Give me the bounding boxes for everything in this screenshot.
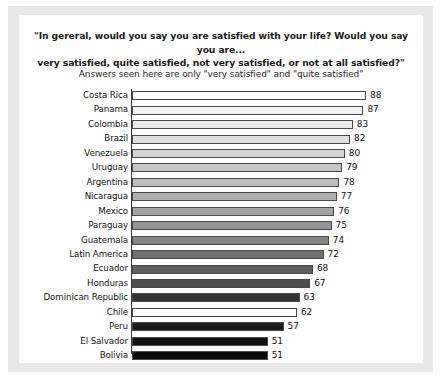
bar-fill	[132, 250, 324, 259]
bar-category-label: Uruguay	[19, 162, 128, 172]
bar-fill	[132, 351, 268, 360]
bar-value-label: 72	[328, 249, 339, 259]
bar-track	[132, 207, 334, 216]
plot-area: Costa Rica88Panama87Colombia83Brazil82Ve…	[19, 89, 423, 361]
bar-track	[132, 293, 300, 302]
bar-fill	[132, 337, 268, 346]
bar-category-label: Ecuador	[19, 263, 128, 273]
bar-value-label: 80	[349, 148, 360, 158]
bar-row: Brazil82	[19, 132, 423, 146]
bar-row: Panama87	[19, 103, 423, 117]
bar-track	[132, 250, 324, 259]
bar-fill	[132, 308, 297, 317]
bar-fill	[132, 265, 313, 274]
chart-canvas: "In gereral, would you say you are satis…	[19, 15, 423, 363]
bar-category-label: Dominican Republic	[19, 292, 128, 302]
bar-value-label: 74	[333, 235, 344, 245]
bar-row: Argentina78	[19, 176, 423, 190]
bar-value-label: 76	[338, 206, 349, 216]
bar-value-label: 51	[272, 350, 283, 360]
bar-row: Peru57	[19, 320, 423, 334]
bar-track	[132, 322, 284, 331]
bar-value-label: 79	[346, 162, 357, 172]
bar-value-label: 63	[304, 292, 315, 302]
bar-category-label: Honduras	[19, 278, 128, 288]
bar-row: Costa Rica88	[19, 89, 423, 103]
bar-row: Ecuador68	[19, 262, 423, 276]
bar-fill	[132, 236, 329, 245]
bar-category-label: Guatemala	[19, 235, 128, 245]
bar-category-label: Chile	[19, 307, 128, 317]
bar-row: Honduras67	[19, 277, 423, 291]
bar-track	[132, 351, 268, 360]
bar-value-label: 77	[341, 191, 352, 201]
figure-frame: "In gereral, would you say you are satis…	[0, 0, 441, 380]
bar-value-label: 67	[314, 278, 325, 288]
bar-track	[132, 265, 313, 274]
bar-fill	[132, 293, 300, 302]
bar-row: Bolivia51	[19, 349, 423, 363]
bar-fill	[132, 192, 337, 201]
bar-value-label: 88	[370, 90, 381, 100]
bar-fill	[132, 163, 342, 172]
bar-fill	[132, 149, 345, 158]
bar-fill	[132, 178, 339, 187]
bar-fill	[132, 279, 310, 288]
bar-row: Chile62	[19, 306, 423, 320]
bar-category-label: Costa Rica	[19, 90, 128, 100]
bar-value-label: 62	[301, 307, 312, 317]
bar-category-label: Venezuela	[19, 148, 128, 158]
bar-category-label: Peru	[19, 321, 128, 331]
bar-value-label: 82	[354, 133, 365, 143]
bar-category-label: Mexico	[19, 206, 128, 216]
bar-track	[132, 135, 350, 144]
bar-value-label: 87	[367, 104, 378, 114]
bar-row: Dominican Republic63	[19, 291, 423, 305]
bar-row: El Salvador51	[19, 335, 423, 349]
bar-value-label: 51	[272, 336, 283, 346]
bar-row: Venezuela80	[19, 147, 423, 161]
chart-title-line-1: "In gereral, would you say you are satis…	[31, 29, 411, 56]
bar-track	[132, 178, 339, 187]
bar-row: Guatemala74	[19, 234, 423, 248]
bar-value-label: 68	[317, 263, 328, 273]
bar-category-label: Argentina	[19, 177, 128, 187]
bar-track	[132, 308, 297, 317]
bar-fill	[132, 91, 366, 100]
bar-row: Mexico76	[19, 205, 423, 219]
bar-track	[132, 236, 329, 245]
bar-category-label: Nicaragua	[19, 191, 128, 201]
bar-track	[132, 106, 363, 115]
chart-subtitle: Answers seen here are only "very satisfi…	[31, 68, 411, 80]
bar-category-label: El Salvador	[19, 336, 128, 346]
bar-track	[132, 279, 310, 288]
bar-track	[132, 337, 268, 346]
bar-row: Paraguay75	[19, 219, 423, 233]
chart-title: "In gereral, would you say you are satis…	[31, 29, 411, 70]
bar-fill	[132, 322, 284, 331]
bar-row: Uruguay79	[19, 161, 423, 175]
bar-fill	[132, 106, 363, 115]
bar-category-label: Bolivia	[19, 350, 128, 360]
bar-track	[132, 120, 353, 129]
bar-value-label: 75	[336, 220, 347, 230]
bar-track	[132, 163, 342, 172]
bar-value-label: 83	[357, 119, 368, 129]
bar-category-label: Latin America	[19, 249, 128, 259]
bar-track	[132, 149, 345, 158]
bar-fill	[132, 135, 350, 144]
bar-category-label: Paraguay	[19, 220, 128, 230]
bar-fill	[132, 120, 353, 129]
bar-value-label: 78	[343, 177, 354, 187]
bar-row: Nicaragua77	[19, 190, 423, 204]
bar-row: Colombia83	[19, 118, 423, 132]
bar-track	[132, 192, 337, 201]
bar-value-label: 57	[288, 321, 299, 331]
bar-category-label: Brazil	[19, 133, 128, 143]
bar-fill	[132, 221, 332, 230]
bar-category-label: Colombia	[19, 119, 128, 129]
bar-track	[132, 91, 366, 100]
bar-fill	[132, 207, 334, 216]
bar-track	[132, 221, 332, 230]
bar-category-label: Panama	[19, 104, 128, 114]
